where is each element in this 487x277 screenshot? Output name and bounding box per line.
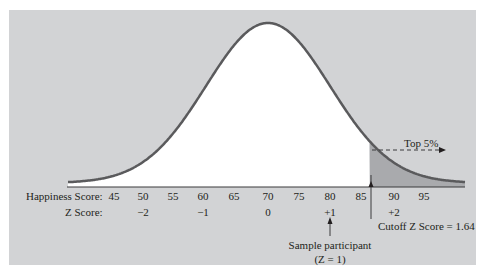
happiness-tick: 50 <box>138 190 149 202</box>
z-tick: +2 <box>388 206 400 218</box>
happiness-tick: 45 <box>109 190 120 202</box>
arrow-up-icon <box>328 217 333 224</box>
z-tick: −1 <box>197 206 209 218</box>
sample-participant-label: Sample participant <box>289 239 372 251</box>
z-score-row-label: Z Score: <box>65 206 103 218</box>
arrow-right-icon <box>439 147 446 153</box>
happiness-tick: 70 <box>263 190 274 202</box>
happiness-tick: 85 <box>356 190 367 202</box>
cutoff-z-label: Cutoff Z Score = 1.64 <box>378 220 475 232</box>
z-tick: +1 <box>324 206 336 218</box>
happiness-tick: 95 <box>419 190 430 202</box>
sample-participant-z-label: (Z = 1) <box>314 253 345 265</box>
happiness-tick: 75 <box>294 190 305 202</box>
z-tick: 0 <box>265 206 271 218</box>
z-tick: −2 <box>137 206 149 218</box>
happiness-tick: 55 <box>168 190 179 202</box>
happiness-tick: 60 <box>198 190 209 202</box>
happiness-tick: 80 <box>325 190 336 202</box>
happiness-score-row-label: Happiness Score: <box>26 190 103 202</box>
happiness-tick: 90 <box>389 190 400 202</box>
happiness-tick: 65 <box>229 190 240 202</box>
top-5-percent-label: Top 5% <box>404 137 438 149</box>
curve-body-fill <box>68 23 370 187</box>
